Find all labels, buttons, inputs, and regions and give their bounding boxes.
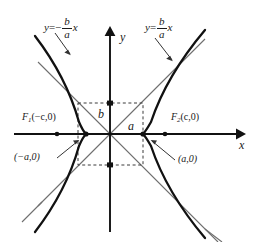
asymptote-negative-slope-tail	[205, 229, 222, 242]
semi-minor-label: b	[98, 108, 104, 120]
hyperbola-figure: y=− b a x y= b a x y x F1(−c,0) F2(c,0) …	[0, 0, 257, 242]
focus-right-coords: (c,0)	[181, 111, 200, 122]
asymptote-left-fraction: b a	[62, 16, 72, 40]
asymptote-right-equation: y= b a x	[145, 16, 173, 40]
asymptote-left-variable: x	[73, 21, 78, 33]
focus-left-label: F1(−c,0)	[22, 112, 56, 124]
asymptote-right-equals: =	[150, 21, 156, 33]
left-asymptote-leader-arrowhead	[64, 50, 70, 55]
vertex-right-label: (a,0)	[178, 154, 197, 164]
x-axis-label: x	[239, 139, 244, 151]
asymptote-right-denominator: a	[157, 29, 167, 41]
covertex-top-mark	[107, 101, 113, 106]
asymptote-positive-slope-tail	[22, 202, 42, 222]
left-vertex-leader-line	[57, 141, 78, 158]
asymptote-right-variable: x	[168, 21, 173, 33]
vertex-left-point	[83, 131, 88, 136]
y-axis-label: y	[120, 31, 125, 43]
asymptote-left-equation: y=− b a x	[44, 16, 78, 40]
semi-major-label: a	[128, 120, 134, 132]
covertex-bottom-mark	[107, 162, 113, 167]
focus-left-point	[55, 132, 60, 137]
vertex-right-point	[140, 131, 145, 136]
focus-right-label: F2(c,0)	[171, 112, 199, 124]
asymptote-left-sign: −	[55, 21, 61, 33]
asymptote-right-fraction: b a	[157, 16, 167, 40]
asymptote-left-denominator: a	[62, 29, 72, 41]
vertex-left-label: (−a,0)	[14, 152, 40, 162]
y-axis-arrowhead	[105, 26, 116, 36]
asymptote-left-numerator: b	[62, 16, 72, 29]
focus-left-coords: (−c,0)	[32, 111, 56, 122]
right-asymptote-leader-arrowhead	[166, 56, 173, 61]
focus-right-point	[163, 132, 168, 137]
asymptote-right-numerator: b	[157, 16, 167, 29]
